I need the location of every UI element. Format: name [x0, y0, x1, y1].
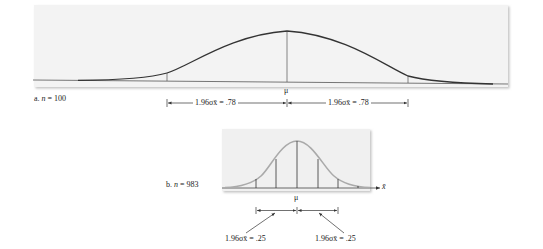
- panel-b-mu-label: μ: [294, 194, 298, 202]
- panel-b-right-leader-arrow: [319, 213, 344, 233]
- sampling-distribution-diagram: [0, 0, 543, 249]
- panel-a-label: a. n = 100: [34, 95, 66, 103]
- panel-b-background: [222, 129, 370, 191]
- panel-a-left-bracket-label: 1.96σx̄ = .78: [193, 99, 238, 107]
- panel-b: [222, 129, 380, 233]
- panel-b-left-bracket-label: 1.96σx̄ = .25: [225, 235, 266, 243]
- panel-b-axis-label: x̄: [382, 183, 386, 191]
- panel-b-label: b. n = 983: [166, 181, 199, 189]
- panel-b-left-leader-arrow: [246, 213, 275, 233]
- panel-a: [33, 5, 508, 107]
- panel-a-right-bracket-label: 1.96σx̄ = .78: [326, 99, 371, 107]
- panel-a-background: [34, 5, 508, 87]
- panel-a-mu-label: μ: [284, 87, 288, 95]
- panel-b-right-bracket-label: 1.96σx̄ = .25: [315, 235, 356, 243]
